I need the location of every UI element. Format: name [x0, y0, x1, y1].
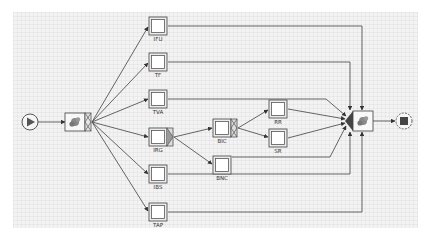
flow-ibs-join[interactable]: [168, 132, 350, 174]
task-ibs[interactable]: IBS: [149, 165, 167, 190]
task-rr[interactable]: RR: [269, 100, 287, 125]
task-tap[interactable]: TAP: [149, 203, 167, 228]
task-label: BNC: [216, 175, 228, 181]
task-label: IFU: [154, 36, 163, 42]
task-label: TVA: [152, 109, 164, 115]
flow-tap-join[interactable]: [168, 132, 362, 212]
stop-icon: [400, 117, 408, 125]
join-node[interactable]: [345, 111, 373, 131]
task-label: TAP: [152, 222, 164, 228]
task-label: IRG: [153, 147, 163, 153]
workflow-diagram: IFUTFTVAIRGIBSTAPBICBNCRRSR: [0, 0, 430, 249]
and-split-marker: [85, 113, 91, 131]
flow-irg-bic[interactable]: [174, 128, 212, 137]
task-bnc[interactable]: BNC: [213, 156, 231, 181]
split-node[interactable]: [65, 113, 91, 131]
and-split-marker: [231, 119, 237, 137]
flow-ifu-join[interactable]: [168, 26, 362, 110]
task-bic[interactable]: BIC: [213, 119, 237, 144]
flow-tf-join[interactable]: [168, 62, 350, 110]
start-condition[interactable]: [22, 114, 38, 130]
flow-irg-bnc[interactable]: [174, 137, 212, 164]
task-tf[interactable]: TF: [149, 53, 167, 78]
task-label: BIC: [217, 138, 226, 144]
flow-split-tf[interactable]: [92, 63, 148, 122]
task-irg[interactable]: IRG: [149, 128, 173, 153]
task-label: IBS: [154, 184, 163, 190]
flow-split-tva[interactable]: [92, 99, 148, 122]
task-label: SR: [274, 148, 281, 154]
flow-split-ifu[interactable]: [92, 27, 148, 122]
task-list: IFUTFTVAIRGIBSTAPBICBNCRRSR: [149, 17, 287, 228]
task-label: RR: [274, 119, 282, 125]
join-marker: [345, 111, 353, 131]
task-sr[interactable]: SR: [269, 129, 287, 154]
end-condition[interactable]: [396, 113, 412, 129]
flow-tva-join[interactable]: [168, 99, 346, 116]
task-tva[interactable]: TVA: [149, 90, 167, 115]
task-ifu[interactable]: IFU: [149, 17, 167, 42]
flow-sr-join[interactable]: [288, 123, 345, 138]
task-label: TF: [154, 72, 162, 78]
flow-bic-sr[interactable]: [238, 128, 268, 137]
flow-rr-join[interactable]: [288, 109, 345, 119]
flow-bnc-join[interactable]: [232, 126, 346, 157]
flow-bic-rr[interactable]: [238, 110, 268, 128]
